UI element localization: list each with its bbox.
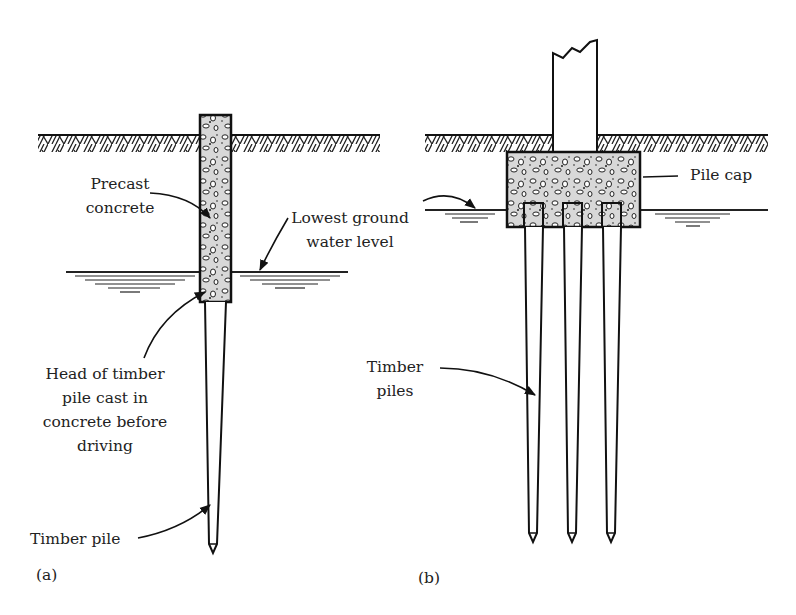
label-line: Timber [355,355,435,379]
panel-a-tag: (a) [36,563,57,587]
leader-timber-piles [440,368,535,395]
timber-pile-3 [603,227,621,542]
leader-water-level [260,218,288,270]
label-head-of-timber-pile: Head of timber pile cast in concrete bef… [30,362,180,458]
label-line: water level [290,230,410,254]
panel-b-tag: (b) [418,566,440,590]
leader-pile-cap [643,176,678,177]
label-timber-piles: Timber piles [355,355,435,403]
pile-diagram [0,0,796,615]
timber-pile-a [205,302,226,553]
label-line: concrete [70,196,170,220]
label-line: Precast [70,172,170,196]
label-timber-pile: Timber pile [30,527,120,551]
label-line: Lowest ground [290,206,410,230]
timber-pile-2 [564,227,582,542]
label-lowest-ground-water-level: Lowest ground water level [290,206,410,254]
label-precast-concrete: Precast concrete [70,172,170,220]
leader-water-b [423,196,475,208]
timber-pile-1 [525,227,543,542]
timber-piles-b [525,227,621,542]
leader-head [144,292,205,358]
label-pile-cap: Pile cap [690,163,752,187]
label-line: Head of timber [30,362,180,386]
label-line: pile cast in [30,386,180,410]
panel-b [423,40,768,542]
label-line: concrete before [30,410,180,434]
precast-concrete-block [200,115,231,302]
label-line: driving [30,434,180,458]
label-line: piles [355,379,435,403]
leader-timber-pile [138,505,210,538]
